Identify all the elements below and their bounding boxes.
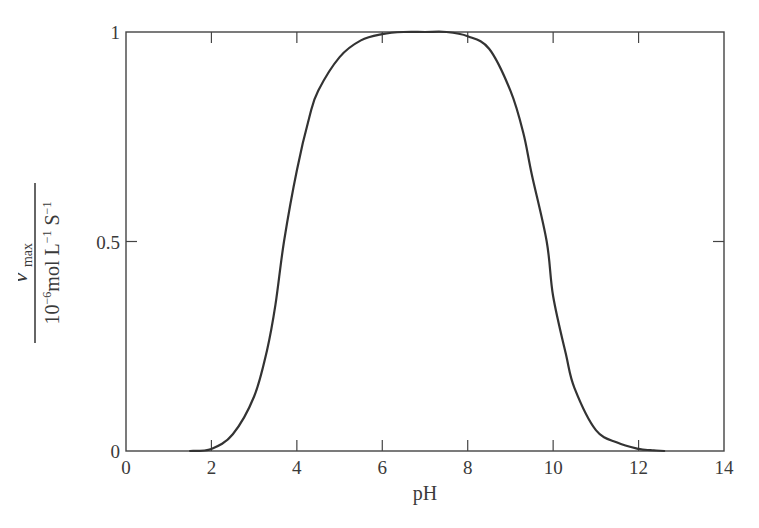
y-tick-label: 1 bbox=[111, 22, 121, 43]
y-axis-numerator: v′max bbox=[18, 243, 35, 283]
plot-frame bbox=[126, 32, 724, 451]
x-tick-label: 6 bbox=[378, 457, 388, 478]
x-tick-label: 12 bbox=[629, 457, 648, 478]
y-tick-label: 0.5 bbox=[96, 232, 120, 253]
y-axis-denominator: 10−6mol L−1 S−1 bbox=[40, 202, 63, 325]
x-tick-label: 8 bbox=[463, 457, 473, 478]
x-tick-label: 4 bbox=[292, 457, 302, 478]
x-tick-label: 14 bbox=[715, 457, 735, 478]
data-curve bbox=[190, 32, 664, 451]
x-tick-labels: 02468101214 bbox=[121, 457, 734, 478]
x-tick-label: 0 bbox=[121, 457, 131, 478]
y-tick-labels: 00.51 bbox=[96, 22, 120, 462]
x-tick-label: 2 bbox=[207, 457, 217, 478]
y-tick-label: 0 bbox=[111, 441, 121, 462]
y-axis-title: v′max 10−6mol L−1 S−1 bbox=[18, 178, 78, 348]
chart: 02468101214 00.51 pH bbox=[0, 0, 759, 528]
x-axis-title: pH bbox=[413, 482, 437, 505]
axis-ticks bbox=[126, 32, 724, 451]
x-tick-label: 10 bbox=[544, 457, 563, 478]
plot-border bbox=[126, 32, 724, 451]
